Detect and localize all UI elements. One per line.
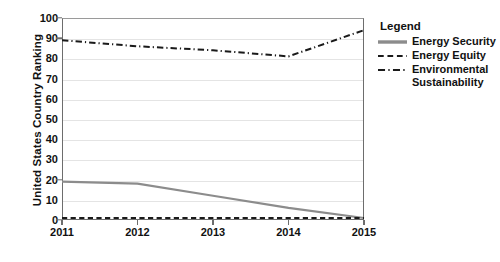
x-tick-label: 2011 bbox=[34, 226, 90, 238]
legend-swatch-dashed-icon bbox=[378, 49, 408, 62]
y-tick-label: 70 bbox=[28, 73, 58, 85]
x-tick-mark bbox=[212, 220, 213, 225]
legend: Legend Energy SecurityEnergy EquityEnvir… bbox=[378, 20, 500, 89]
x-tick-label: 2015 bbox=[336, 226, 392, 238]
x-tick-mark bbox=[288, 220, 289, 225]
y-tick-label: 10 bbox=[28, 194, 58, 206]
y-tick-label: 60 bbox=[28, 93, 58, 105]
legend-swatch-solid-icon bbox=[378, 35, 408, 48]
line-chart: United States Country Ranking 0102030405… bbox=[0, 0, 500, 262]
legend-label: Environmental Sustainability bbox=[412, 63, 500, 88]
legend-item: Energy Security bbox=[378, 35, 500, 48]
series-lines bbox=[62, 18, 364, 220]
x-tick-mark bbox=[137, 220, 138, 225]
y-tick-label: 50 bbox=[28, 113, 58, 125]
x-tick-label: 2012 bbox=[110, 226, 166, 238]
x-tick-mark bbox=[363, 220, 364, 225]
legend-title: Legend bbox=[378, 20, 500, 32]
series-line bbox=[62, 182, 364, 218]
x-tick-label: 2013 bbox=[185, 226, 241, 238]
legend-label: Energy Equity bbox=[412, 49, 486, 62]
y-tick-label: 0 bbox=[28, 214, 58, 226]
legend-swatch-dash-dot-icon bbox=[378, 63, 408, 76]
x-tick-mark bbox=[61, 220, 62, 225]
legend-label: Energy Security bbox=[412, 35, 496, 48]
x-tick-label: 2014 bbox=[261, 226, 317, 238]
y-tick-label: 90 bbox=[28, 32, 58, 44]
y-tick-label: 20 bbox=[28, 174, 58, 186]
legend-item: Energy Equity bbox=[378, 49, 500, 62]
series-line bbox=[62, 30, 364, 56]
y-tick-label: 80 bbox=[28, 52, 58, 64]
y-tick-label: 100 bbox=[28, 12, 58, 24]
y-tick-label: 30 bbox=[28, 153, 58, 165]
legend-item: Environmental Sustainability bbox=[378, 63, 500, 88]
y-tick-label: 40 bbox=[28, 133, 58, 145]
